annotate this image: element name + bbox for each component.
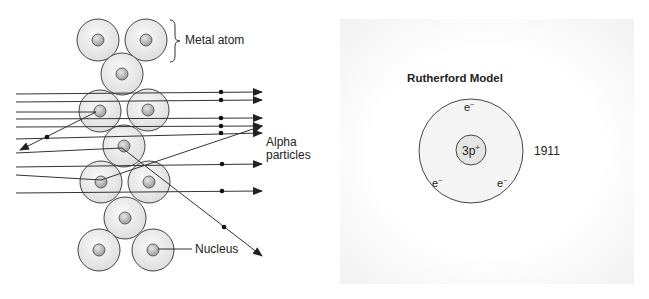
atom-nucleus — [116, 68, 128, 80]
metal-atom — [79, 90, 121, 132]
nucleus-label: Nucleus — [195, 242, 238, 256]
metal-atom — [80, 161, 122, 203]
alpha-path — [16, 118, 262, 119]
atom-nucleus — [143, 176, 155, 188]
alpha-path — [16, 126, 262, 127]
atom-nucleus — [140, 34, 152, 46]
atom-nucleus — [119, 212, 131, 224]
atom-nucleus — [118, 140, 130, 152]
metal-atom — [132, 229, 174, 271]
brace-icon — [170, 20, 180, 62]
rutherford-model-panel: Rutherford Model 3p+ e− e− e− 1911 — [340, 19, 634, 284]
alpha-label-line1: Alpha — [266, 135, 297, 149]
metal-atom — [127, 89, 169, 131]
metal-atom — [101, 53, 143, 95]
scattering-svg: Metal atom Alpha particles Nucleus — [0, 0, 335, 299]
metal-atom — [78, 229, 120, 271]
atom-nucleus — [92, 34, 104, 46]
alpha-label-line2: particles — [266, 148, 311, 162]
atom-nucleus — [147, 244, 159, 256]
metal-foil-atoms — [77, 19, 174, 271]
atom-nucleus — [95, 176, 107, 188]
atom-nucleus — [94, 105, 106, 117]
atom-nucleus — [93, 244, 105, 256]
metal-atom — [128, 161, 170, 203]
atom-nucleus — [142, 104, 154, 116]
rutherford-title: Rutherford Model — [407, 72, 503, 84]
alpha-scattering-diagram: Metal atom Alpha particles Nucleus — [0, 0, 335, 299]
metal-atom-label: Metal atom — [185, 33, 244, 47]
rutherford-svg: Rutherford Model 3p+ e− e− e− 1911 — [340, 19, 634, 284]
year-label: 1911 — [534, 144, 560, 158]
backscattered-path — [16, 112, 96, 150]
